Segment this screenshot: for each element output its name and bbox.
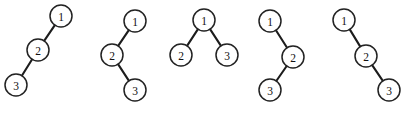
tree-node: 2 (101, 44, 123, 66)
tree-node: 3 (216, 44, 238, 66)
tree-edge (118, 30, 129, 46)
tree-node: 2 (170, 44, 192, 66)
tree-left-chain: 123 (5, 5, 72, 96)
tree-edge (372, 65, 383, 81)
node-label: 2 (109, 50, 115, 62)
node-label: 3 (386, 85, 392, 97)
node-label: 2 (290, 52, 296, 64)
tree-node: 1 (193, 9, 215, 31)
tree-node: 1 (124, 10, 146, 32)
tree-node: 2 (355, 45, 377, 67)
tree-edge (118, 64, 129, 81)
tree-node: 2 (27, 39, 49, 61)
node-label: 1 (267, 16, 273, 28)
tree-diagram-canvas: 123123123123123 (0, 0, 406, 114)
tree-node: 3 (259, 79, 281, 101)
binary-tree-figure: 123123123123123 (0, 0, 406, 114)
tree-left-right-zigzag: 123 (101, 10, 146, 101)
tree-node: 1 (333, 9, 355, 31)
tree-edge (210, 29, 221, 46)
node-label: 1 (201, 15, 207, 27)
tree-edge (350, 29, 361, 46)
tree-edge (276, 30, 287, 47)
tree-edge (276, 66, 286, 81)
node-label: 3 (224, 50, 230, 62)
tree-node: 1 (50, 5, 72, 27)
tree-right-chain: 123 (333, 9, 400, 101)
node-label: 2 (363, 51, 369, 63)
tree-node: 2 (282, 46, 304, 68)
tree-edge (187, 29, 198, 46)
node-label: 3 (132, 85, 138, 97)
node-label: 2 (178, 50, 184, 62)
node-label: 1 (341, 15, 347, 27)
tree-node: 3 (124, 79, 146, 101)
tree-node: 3 (5, 74, 27, 96)
node-label: 1 (58, 11, 64, 23)
tree-right-left-zigzag: 123 (259, 10, 304, 101)
tree-node: 3 (378, 79, 400, 101)
node-label: 1 (132, 16, 138, 28)
node-label: 3 (13, 80, 19, 92)
node-label: 2 (35, 45, 41, 57)
node-label: 3 (267, 85, 273, 97)
tree-node: 1 (259, 10, 281, 32)
tree-edge (22, 59, 32, 75)
tree-balanced: 123 (170, 9, 238, 66)
tree-edge (44, 25, 55, 41)
